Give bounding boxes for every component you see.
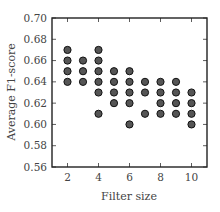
data-points — [64, 46, 195, 128]
y-axis-label: Average F1-score — [5, 43, 18, 142]
data-point — [157, 78, 164, 85]
data-point — [172, 110, 179, 117]
data-point — [79, 78, 86, 85]
y-tick-label: 0.64 — [24, 75, 48, 87]
y-tick-label: 0.60 — [24, 118, 47, 130]
y-tick-label: 0.70 — [24, 12, 47, 24]
y-tick-label: 0.68 — [24, 33, 47, 45]
data-point — [110, 100, 117, 107]
y-tick-labels: 0.560.580.600.620.640.660.680.70 — [24, 12, 48, 173]
y-tick-label: 0.66 — [24, 54, 48, 66]
x-tick-label: 4 — [95, 171, 102, 183]
data-point — [126, 78, 133, 85]
x-tick-label: 10 — [185, 171, 198, 183]
data-point — [64, 46, 71, 53]
y-tick-label: 0.58 — [24, 139, 47, 151]
x-tick-label: 2 — [64, 171, 71, 183]
data-point — [188, 110, 195, 117]
data-point — [157, 89, 164, 96]
x-axis-label: Filter size — [101, 190, 157, 203]
x-tick-label: 6 — [126, 171, 133, 183]
data-point — [141, 78, 148, 85]
data-point — [126, 100, 133, 107]
data-point — [64, 57, 71, 64]
data-point — [110, 78, 117, 85]
data-point — [95, 110, 102, 117]
data-point — [188, 100, 195, 107]
data-point — [141, 89, 148, 96]
data-point — [188, 89, 195, 96]
data-point — [126, 89, 133, 96]
data-point — [157, 110, 164, 117]
y-tick-label: 0.62 — [24, 97, 47, 109]
data-point — [157, 100, 164, 107]
data-point — [110, 68, 117, 75]
data-point — [172, 100, 179, 107]
data-point — [64, 78, 71, 85]
data-point — [188, 121, 195, 128]
data-point — [95, 57, 102, 64]
data-point — [79, 57, 86, 64]
scatter-chart: 0.560.580.600.620.640.660.680.70 246810 … — [0, 0, 220, 212]
x-tick-labels: 246810 — [64, 171, 198, 183]
data-point — [95, 68, 102, 75]
data-point — [172, 78, 179, 85]
data-point — [79, 68, 86, 75]
data-point — [95, 46, 102, 53]
data-point — [95, 89, 102, 96]
data-point — [95, 78, 102, 85]
data-point — [172, 89, 179, 96]
data-point — [110, 89, 117, 96]
data-point — [126, 121, 133, 128]
x-tick-label: 8 — [157, 171, 164, 183]
data-point — [64, 68, 71, 75]
data-point — [141, 110, 148, 117]
y-tick-label: 0.56 — [24, 161, 48, 173]
data-point — [126, 68, 133, 75]
